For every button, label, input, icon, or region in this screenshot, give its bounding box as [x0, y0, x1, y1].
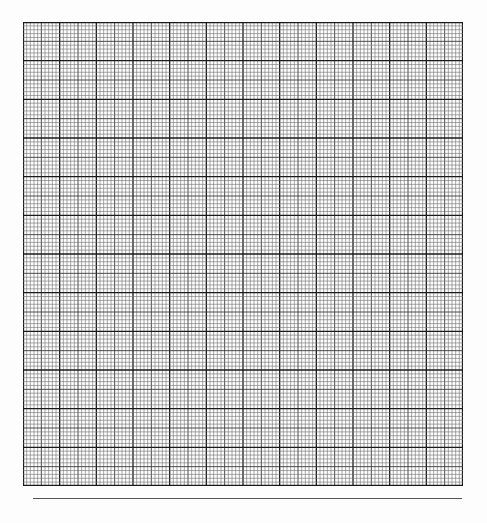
graph-grid [23, 22, 463, 486]
graph-paper-sheet [0, 0, 487, 523]
bottom-rule-line [33, 498, 462, 499]
